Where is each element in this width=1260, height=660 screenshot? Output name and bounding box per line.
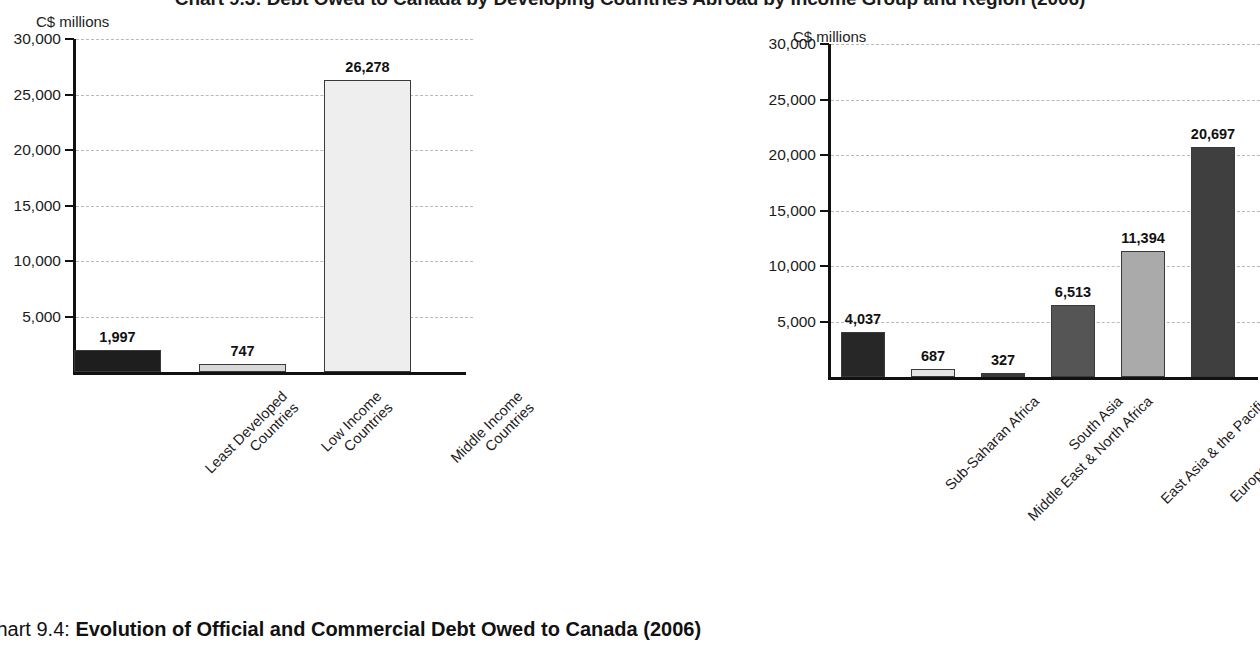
x-axis-category-label: Sub-Saharan Africa: [942, 393, 1042, 493]
bottom-caption-label: Chart 9.4:: [0, 618, 70, 640]
y-axis-tick-label: 25,000: [0, 86, 61, 104]
chart-region: C$ millions30,00025,00020,00015,00010,00…: [755, 25, 1260, 625]
y-axis-tick: [65, 94, 74, 96]
bar: [841, 332, 884, 377]
bar-value-label: 327: [991, 352, 1015, 368]
y-axis-tick-label: 25,000: [748, 91, 816, 109]
bar: [911, 369, 954, 377]
y-axis-tick-label: 15,000: [748, 202, 816, 220]
y-axis-tick: [820, 265, 829, 267]
bar: [1051, 305, 1094, 377]
y-axis-tick: [820, 210, 829, 212]
bar-value-label: 1,997: [99, 329, 135, 345]
bar-value-label: 747: [230, 343, 254, 359]
y-axis-tick: [65, 149, 74, 151]
y-axis-tick-label: 5,000: [748, 313, 816, 331]
chart-income-group: C$ millions30,00025,00020,00015,00010,00…: [0, 10, 470, 610]
x-axis-category-label: Low IncomeCountries: [317, 388, 395, 466]
x-axis-category-label: Middle IncomeCountries: [447, 388, 536, 477]
bar: [1121, 251, 1164, 377]
chart-page: Chart 9.3: Debt Owed to Canada by Develo…: [0, 0, 1260, 660]
y-axis-tick: [65, 260, 74, 262]
bar: [74, 350, 162, 372]
bottom-chart-caption: Chart 9.4: Evolution of Official and Com…: [0, 618, 701, 641]
y-axis-tick: [65, 316, 74, 318]
y-axis-tick: [820, 99, 829, 101]
bottom-caption-title: Evolution of Official and Commercial Deb…: [75, 618, 701, 640]
gridline: [76, 95, 473, 96]
x-axis-baseline: [73, 372, 466, 375]
gridline: [76, 150, 473, 151]
bar-value-label: 687: [921, 348, 945, 364]
y-axis-tick: [820, 321, 829, 323]
gridline: [76, 39, 473, 40]
x-axis-baseline: [828, 377, 1258, 380]
bar: [1191, 147, 1234, 377]
y-axis-tick: [65, 205, 74, 207]
gridline: [831, 100, 1260, 101]
y-axis-tick: [820, 154, 829, 156]
y-axis-tick: [820, 43, 829, 45]
y-axis-tick-label: 10,000: [748, 257, 816, 275]
y-axis-tick-label: 20,000: [748, 146, 816, 164]
y-axis-unit-label: C$ millions: [36, 13, 109, 30]
bar: [199, 364, 287, 372]
bar-value-label: 11,394: [1121, 230, 1165, 246]
x-axis-category-label: Least DevelopedCountries: [201, 388, 301, 488]
bar-value-label: 6,513: [1055, 284, 1091, 300]
gridline: [76, 317, 473, 318]
bar-value-label: 4,037: [845, 311, 881, 327]
bar: [981, 373, 1024, 377]
y-axis-tick-label: 30,000: [748, 35, 816, 53]
y-axis-tick: [65, 38, 74, 40]
bar-value-label: 20,697: [1191, 126, 1235, 142]
top-chart-title: Chart 9.3: Debt Owed to Canada by Develo…: [0, 0, 1260, 10]
bar: [324, 80, 412, 372]
y-axis-tick-label: 15,000: [0, 197, 61, 215]
y-axis-tick-label: 20,000: [0, 141, 61, 159]
y-axis-tick-label: 10,000: [0, 252, 61, 270]
y-axis-tick-label: 30,000: [0, 30, 61, 48]
gridline: [76, 206, 473, 207]
gridline: [831, 44, 1260, 45]
bar-value-label: 26,278: [345, 59, 389, 75]
x-axis-category-label: Middle East & North Africa: [1025, 393, 1156, 524]
y-axis-tick-label: 5,000: [0, 308, 61, 326]
gridline: [76, 261, 473, 262]
